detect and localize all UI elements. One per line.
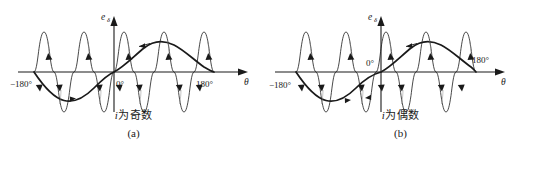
wave-arrow-up-icon <box>398 85 405 92</box>
wave-arrow-down-icon <box>206 53 213 60</box>
plot-svg-a: e δ θ −180° 0° 180° <box>0 0 267 120</box>
wave-arrow-up-icon <box>56 85 63 92</box>
caption-block-b: i为偶数 (b) <box>267 108 534 141</box>
figure-row: e δ θ −180° 0° 180° i为奇数 (a) <box>0 0 535 169</box>
wave-arrow-down-icon <box>86 53 93 60</box>
y-axis-label-a: e <box>101 12 105 22</box>
envelope-arrow-left-icon <box>365 95 371 100</box>
caption-text-b: 为偶数 <box>385 109 419 122</box>
figure-panel-a: e δ θ −180° 0° 180° i为奇数 (a) <box>0 0 267 169</box>
plot-area-a: e δ θ −180° 0° 180° <box>0 0 267 120</box>
y-axis-sublabel-b: δ <box>374 16 378 23</box>
tick-zero-a: 0° <box>116 79 125 89</box>
tick-minus-180-a: −180° <box>10 79 33 89</box>
tick-zero-b: 0° <box>366 58 375 68</box>
caption-block-a: i为奇数 (a) <box>0 108 267 141</box>
envelope-arrow-left-icon <box>345 98 351 103</box>
axes-b <box>275 16 505 112</box>
caption-text-a: 为奇数 <box>118 109 152 122</box>
y-axis-label-b: e <box>368 12 372 22</box>
y-axis-sublabel-a: δ <box>107 16 111 23</box>
wave-arrow-up-icon <box>438 85 445 92</box>
wave-arrow-down-icon <box>388 53 395 60</box>
x-axis-label-a: θ <box>244 77 249 87</box>
wave-arrow-up-icon <box>136 85 143 92</box>
tick-plus-180-a: 180° <box>196 79 214 89</box>
caption-sub-a: (a) <box>0 126 267 141</box>
y-axis-arrowhead-icon <box>110 16 117 26</box>
x-axis-arrowhead-icon <box>495 68 505 75</box>
wave-arrow-down-icon <box>46 53 53 60</box>
wave-arrow-down-icon <box>428 53 435 60</box>
axis-text-b: e δ θ −180° 0° 180° <box>269 12 506 90</box>
plot-svg-b: e δ θ −180° 0° 180° <box>267 0 534 120</box>
wave-arrow-up-icon <box>298 85 305 92</box>
wave-arrow-up-icon <box>96 85 103 92</box>
x-axis-label-b: θ <box>501 77 506 87</box>
wave-arrow-down-icon <box>308 53 315 60</box>
wave-arrow-up-icon <box>318 85 325 92</box>
y-axis-arrowhead-icon <box>377 16 384 26</box>
wave-arrow-up-icon <box>458 85 465 92</box>
tick-plus-180-b: 180° <box>472 55 490 65</box>
wave-arrow-up-icon <box>358 85 365 92</box>
caption-sub-b: (b) <box>267 126 534 141</box>
axes-a <box>18 16 248 112</box>
wave-arrow-up-icon <box>36 85 43 92</box>
wave-arrow-down-icon <box>166 53 173 60</box>
x-axis-arrowhead-icon <box>238 68 248 75</box>
plot-area-b: e δ θ −180° 0° 180° <box>267 0 534 120</box>
wave-arrow-down-icon <box>126 53 133 60</box>
wave-arrow-up-icon <box>176 85 183 92</box>
caption-main-a: i为奇数 <box>0 108 267 124</box>
figure-panel-b: e δ θ −180° 0° 180° i为偶数 (b) <box>267 0 534 169</box>
tick-minus-180-b: −180° <box>269 80 292 90</box>
caption-main-b: i为偶数 <box>267 108 534 124</box>
wave-arrow-down-icon <box>348 53 355 60</box>
